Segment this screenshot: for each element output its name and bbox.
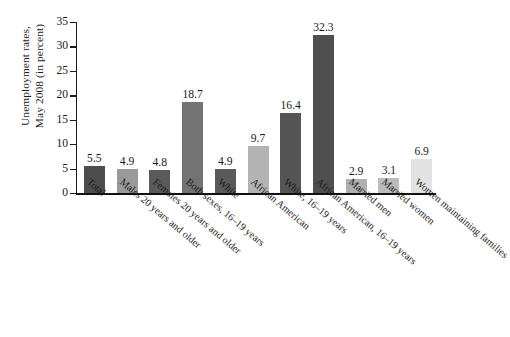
y-tick-label: 15 xyxy=(56,112,68,128)
y-tick-label: 5 xyxy=(62,161,68,177)
bar-value-label: 6.9 xyxy=(414,145,429,158)
y-tick-label: 20 xyxy=(56,87,68,103)
y-axis-title-line-1: Unemployment rates, xyxy=(19,0,33,156)
bar-value-label: 3.1 xyxy=(382,164,397,177)
y-tick-label: 25 xyxy=(56,63,68,79)
y-tick-mark xyxy=(70,95,76,96)
bar-value-label: 18.7 xyxy=(182,88,202,101)
y-axis-line xyxy=(76,22,77,193)
bar-value-label: 4.9 xyxy=(120,155,135,168)
bar-value-label: 32.3 xyxy=(313,21,333,34)
y-tick-label: 30 xyxy=(56,38,68,54)
y-tick-mark xyxy=(70,120,76,121)
y-tick-mark xyxy=(70,71,76,72)
bar-value-label: 4.9 xyxy=(218,155,233,168)
y-tick-label: 35 xyxy=(56,14,68,30)
y-tick-mark xyxy=(70,22,76,23)
y-tick-mark xyxy=(70,169,76,170)
bar-value-label: 9.7 xyxy=(251,132,266,145)
y-axis-title: Unemployment rates, May 2008 (in percent… xyxy=(19,0,59,156)
y-tick-mark xyxy=(70,193,76,194)
bar-value-label: 5.5 xyxy=(87,152,102,165)
bar-value-label: 2.9 xyxy=(349,165,364,178)
plot-area: 05101520253035 5.54.94.818.74.99.716.432… xyxy=(76,22,436,193)
bar-value-label: 4.8 xyxy=(153,156,168,169)
y-tick-mark xyxy=(70,144,76,145)
bar: 32.3 xyxy=(313,35,334,193)
bar-value-label: 16.4 xyxy=(281,99,301,112)
y-tick-label: 0 xyxy=(62,185,68,201)
y-tick-label: 10 xyxy=(56,136,68,152)
y-tick-mark xyxy=(70,46,76,47)
y-axis-title-line-2: May 2008 (in percent) xyxy=(33,0,47,156)
